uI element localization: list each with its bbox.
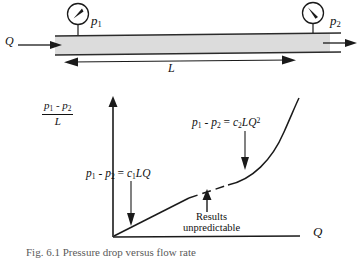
figure-caption: Fig. 6.1 Pressure drop versus flow rate — [26, 247, 196, 258]
transition-note-line2: unpredictable — [183, 222, 240, 233]
gauge-2-label: p2 — [330, 14, 341, 29]
pressure-gauge-icon-1 — [68, 4, 89, 36]
figure-container: p1 p2 Q L p1 - p2 L Q p1 - p2 = c1LQ p1 … — [0, 0, 361, 259]
down-arrow-icon-laminar — [127, 181, 135, 226]
double-headed-arrow-icon-length — [64, 56, 296, 67]
x-axis-label: Q — [313, 225, 322, 238]
y-axis-arrowhead — [109, 96, 118, 107]
y-axis-numerator: p1 - p2 — [42, 100, 73, 115]
inlet-flow-label: Q — [5, 35, 14, 47]
y-axis-denominator: L — [42, 115, 73, 127]
x-axis-line — [113, 236, 300, 237]
figure-canvas — [0, 0, 361, 259]
transition-note-line1: Results — [183, 211, 240, 222]
pipe-assembly — [18, 3, 357, 67]
equation-turbulent: p1 - p2 = c2LQ2 — [192, 117, 260, 130]
pipe-length-label: L — [168, 62, 175, 74]
down-arrow-icon-turbulent — [241, 131, 249, 170]
pressure-gauge-icon-2 — [303, 3, 324, 34]
equation-laminar: p1 - p2 = c1LQ — [86, 168, 151, 180]
pipe-body — [55, 33, 330, 55]
gauge-1-label: p1 — [91, 14, 102, 29]
curve-turbulent-segment — [228, 98, 299, 185]
curve-laminar-segment — [114, 198, 189, 236]
y-axis-label: p1 - p2 L — [42, 100, 73, 127]
transition-note: Results unpredictable — [183, 211, 240, 234]
